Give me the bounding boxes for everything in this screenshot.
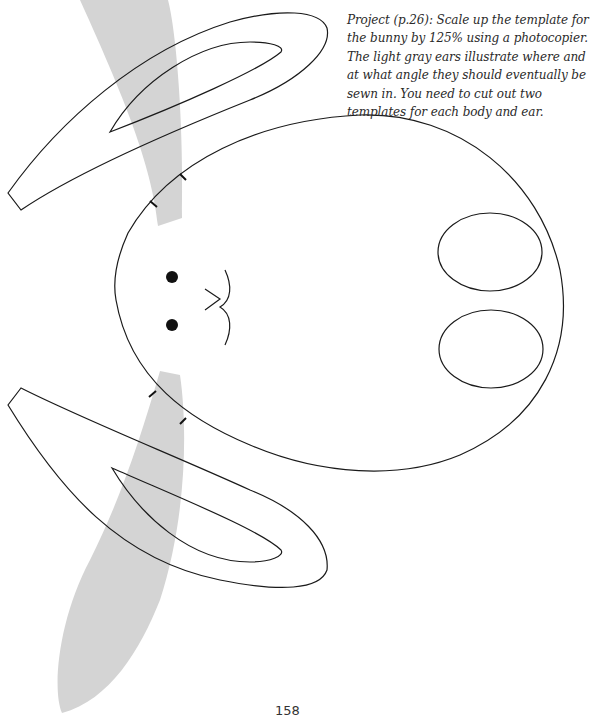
- nose-mouth: [205, 270, 230, 345]
- eye-top: [166, 271, 178, 283]
- tail-oval-top: [438, 213, 542, 291]
- eye-bottom: [166, 319, 178, 331]
- page-number: 158: [275, 703, 300, 718]
- ghost-ear-top: [80, 0, 182, 226]
- tail-oval-bottom: [439, 310, 543, 388]
- project-caption: Project (p.26): Scale up the template fo…: [347, 11, 592, 121]
- ghost-ear-bottom: [58, 371, 185, 713]
